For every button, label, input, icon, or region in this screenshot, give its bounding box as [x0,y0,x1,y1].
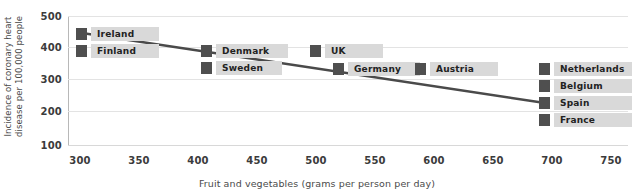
x-tick-label-750: 750 [591,155,631,166]
gridline-500 [68,16,628,17]
data-point-finland[interactable]: Finland [76,44,159,58]
point-label-uk: UK [325,44,383,58]
x-tick-label-300: 300 [60,155,100,166]
data-point-austria[interactable]: Austria [415,62,498,76]
x-tick-label-600: 600 [414,155,454,166]
point-label-finland: Finland [91,44,159,58]
x-tick-label-350: 350 [119,155,159,166]
x-tick-label-500: 500 [296,155,336,166]
x-tick-label-650: 650 [473,155,513,166]
point-label-netherlands: Netherlands [554,62,632,76]
data-point-netherlands[interactable]: Netherlands [539,62,632,76]
marker-icon [539,97,550,109]
point-label-denmark: Denmark [216,44,288,58]
marker-icon [333,63,344,75]
x-axis-title: Fruit and vegetables (grams per person p… [0,178,634,189]
marker-icon [539,80,550,92]
gridline-200 [68,111,628,112]
data-point-germany[interactable]: Germany [333,62,420,76]
y-tick-label-400: 400 [26,42,62,53]
y-tick-label-100: 100 [26,140,62,151]
x-tick-label-450: 450 [237,155,277,166]
point-label-ireland: Ireland [91,27,159,41]
x-tick-label-550: 550 [355,155,395,166]
data-point-france[interactable]: France [539,113,632,127]
point-label-france: France [554,113,632,127]
y-tick-label-500: 500 [26,11,62,22]
x-tick-label-700: 700 [532,155,572,166]
data-point-belgium[interactable]: Belgium [539,79,632,93]
gridline-100 [68,145,628,146]
data-point-spain[interactable]: Spain [539,96,632,110]
data-point-uk[interactable]: UK [310,44,383,58]
data-point-sweden[interactable]: Sweden [201,61,282,75]
x-tick-label-400: 400 [178,155,218,166]
marker-icon [310,45,321,57]
marker-icon [201,62,212,74]
marker-icon [76,45,87,57]
marker-icon [415,63,426,75]
point-label-germany: Germany [348,62,420,76]
chart-container: Incidence of coronary heart disease per … [0,0,634,195]
point-label-austria: Austria [430,62,498,76]
data-point-denmark[interactable]: Denmark [201,44,288,58]
y-axis-title: Incidence of coronary heart disease per … [3,2,24,152]
data-point-ireland[interactable]: Ireland [76,27,159,41]
y-tick-label-200: 200 [26,106,62,117]
point-label-belgium: Belgium [554,79,632,93]
point-label-sweden: Sweden [216,61,282,75]
marker-icon [201,45,212,57]
y-tick-label-300: 300 [26,74,62,85]
point-label-spain: Spain [554,96,632,110]
marker-icon [539,114,550,126]
marker-icon [539,63,550,75]
marker-icon [76,28,87,40]
